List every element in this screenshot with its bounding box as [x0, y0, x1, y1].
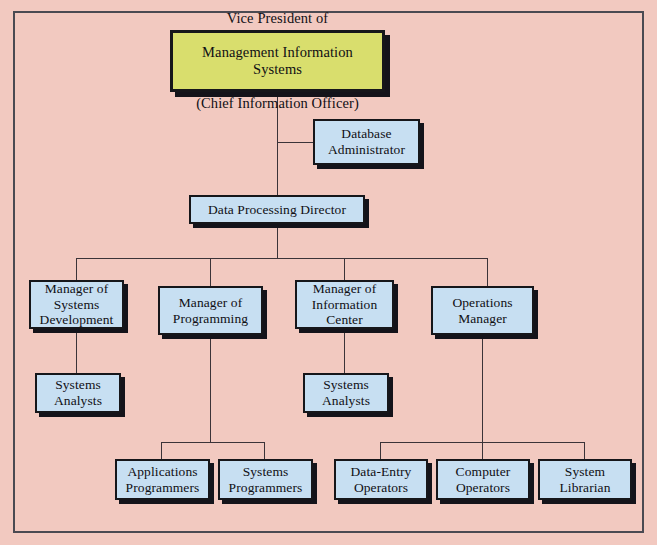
vp-line-2: Management Information Systems — [177, 44, 378, 78]
connector-om-to-co — [482, 442, 483, 459]
connector-msd-to-sa — [76, 329, 77, 373]
connector-dpd-bar — [76, 258, 487, 259]
node-systems-analysts-development-label: Systems Analysts — [41, 377, 115, 409]
node-data-processing-director-label: Data Processing Director — [195, 202, 359, 218]
node-applications-programmers[interactable]: Applications Programmers — [115, 459, 210, 500]
node-manager-of-systems-development-label: Manager of Systems Development — [35, 281, 118, 329]
node-database-administrator[interactable]: Database Administrator — [313, 119, 420, 165]
connector-dpd-to-mp — [210, 258, 211, 286]
node-data-entry-operators-label: Data-Entry Operators — [340, 464, 422, 496]
node-manager-of-programming-label: Manager of Programming — [164, 295, 257, 327]
connector-mp-stem — [210, 335, 211, 442]
vp-line-1: Vice President of — [177, 10, 378, 27]
node-data-entry-operators[interactable]: Data-Entry Operators — [334, 459, 428, 500]
connector-dpd-stem — [277, 224, 278, 258]
node-systems-programmers-label: Systems Programmers — [224, 464, 307, 496]
node-vice-president-label: Vice President of Management Information… — [177, 0, 378, 129]
connector-vp-to-dba — [277, 142, 313, 143]
node-system-librarian[interactable]: System Librarian — [538, 459, 632, 500]
connector-dpd-to-mic — [344, 258, 345, 280]
node-operations-manager-label: Operations Manager — [437, 295, 528, 327]
node-data-processing-director[interactable]: Data Processing Director — [189, 195, 365, 224]
node-operations-manager[interactable]: Operations Manager — [431, 286, 534, 335]
connector-mp-bar — [161, 442, 265, 443]
node-systems-analysts-development[interactable]: Systems Analysts — [35, 373, 121, 413]
node-manager-of-information-center[interactable]: Manager of Information Center — [295, 280, 394, 329]
org-chart-page: Vice President of Management Information… — [0, 0, 657, 545]
connector-mic-to-sa — [344, 329, 345, 373]
node-systems-programmers[interactable]: Systems Programmers — [218, 459, 313, 500]
node-computer-operators-label: Computer Operators — [442, 464, 524, 496]
node-systems-analysts-info-center-label: Systems Analysts — [309, 377, 383, 409]
connector-dpd-to-om — [487, 258, 488, 286]
connector-mp-to-sp — [264, 442, 265, 459]
vp-line-3: (Chief Information Officer) — [177, 95, 378, 112]
node-manager-of-systems-development[interactable]: Manager of Systems Development — [29, 280, 124, 329]
connector-om-to-deo — [380, 442, 381, 459]
node-computer-operators[interactable]: Computer Operators — [436, 459, 530, 500]
node-system-librarian-label: System Librarian — [544, 464, 626, 496]
node-vice-president[interactable]: Vice President of Management Information… — [170, 30, 385, 92]
node-applications-programmers-label: Applications Programmers — [121, 464, 204, 496]
node-manager-of-information-center-label: Manager of Information Center — [301, 281, 388, 329]
node-systems-analysts-info-center[interactable]: Systems Analysts — [303, 373, 389, 413]
node-manager-of-programming[interactable]: Manager of Programming — [158, 286, 263, 335]
connector-om-to-sl — [584, 442, 585, 459]
connector-om-stem — [482, 335, 483, 442]
org-chart-canvas: Vice President of Management Information… — [0, 0, 657, 545]
node-database-administrator-label: Database Administrator — [319, 126, 414, 158]
connector-dpd-to-msd — [76, 258, 77, 280]
connector-mp-to-ap — [161, 442, 162, 459]
